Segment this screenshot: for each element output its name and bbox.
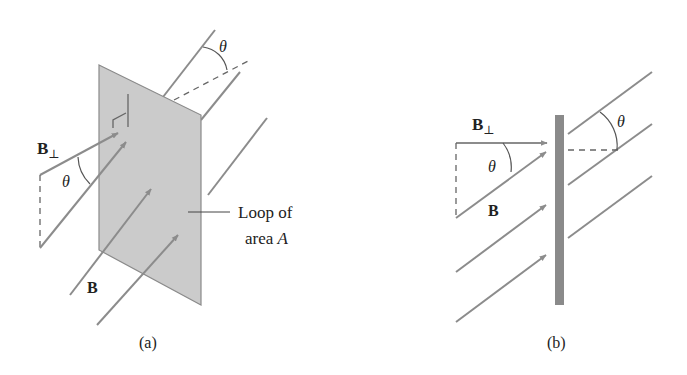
panel-b: B⊥ θ θ B (b) <box>456 72 652 352</box>
b-perp-label: B⊥ <box>37 139 60 161</box>
loop-edge-bar <box>555 115 564 305</box>
theta-label-left-b: θ <box>488 158 496 175</box>
theta-label-right-b: θ <box>617 113 625 130</box>
field-line-behind-second <box>201 72 240 120</box>
loop-label-line2: area A <box>245 229 289 248</box>
b-label: B <box>87 279 98 296</box>
theta-label-left: θ <box>62 173 70 190</box>
field-line-behind-top <box>163 30 215 97</box>
field-line-right-3 <box>568 176 652 238</box>
loop-plate <box>99 65 201 305</box>
field-line-right-2 <box>568 124 652 185</box>
b-label-b: B <box>488 202 499 219</box>
normal-dashed-line <box>174 60 250 100</box>
flux-diagram: B⊥ θ θ B Loop of area A (a) B⊥ θ θ B <box>0 0 687 375</box>
b-arrow-b2 <box>456 205 546 272</box>
theta-label-top: θ <box>219 38 227 55</box>
b-perp-label-b: B⊥ <box>472 115 495 137</box>
b-arrow-b1 <box>456 152 546 218</box>
theta-arc-left <box>78 157 90 184</box>
loop-label-line1: Loop of <box>238 203 293 222</box>
caption-b: (b) <box>547 334 566 352</box>
theta-arc-left-b <box>503 143 511 172</box>
caption-a: (a) <box>139 334 157 352</box>
theta-arc-right <box>600 112 617 150</box>
field-line-right-1 <box>568 72 652 134</box>
b-arrow-b3 <box>456 255 546 322</box>
figure-canvas: B⊥ θ θ B Loop of area A (a) B⊥ θ θ B <box>0 0 687 375</box>
panel-a: B⊥ θ θ B Loop of area A (a) <box>37 30 293 352</box>
field-line-right <box>208 118 267 195</box>
